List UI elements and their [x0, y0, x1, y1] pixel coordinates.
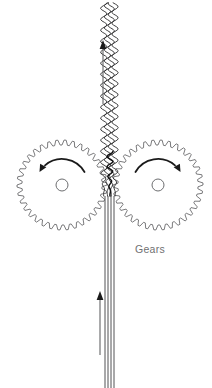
gear-crimping-diagram: Gears: [0, 0, 212, 388]
gears-caption-label: Gears: [135, 243, 165, 255]
diagram-canvas: Gears: [0, 0, 212, 388]
canvas-background: [0, 0, 212, 388]
